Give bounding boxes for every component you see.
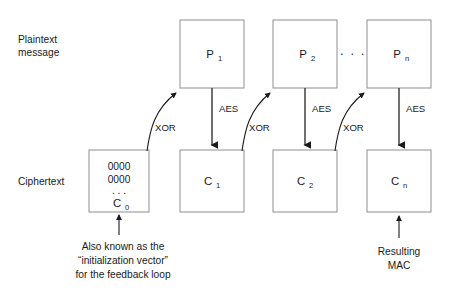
ciphertext-block-c2-label: C xyxy=(297,175,305,187)
ciphertext-block-c1: C 1 xyxy=(180,150,244,212)
iv-caption: Also known as the “initialization vector… xyxy=(75,241,170,280)
aes-label-1: AES xyxy=(219,103,238,114)
xor-label-2: XOR xyxy=(249,122,270,133)
aes-label-2: AES xyxy=(312,103,331,114)
ciphertext-block-cn-label: C xyxy=(391,175,399,187)
iv-block-ellipsis: . . . xyxy=(112,185,126,196)
ciphertext-block-cn: C n xyxy=(367,150,431,212)
iv-caption-line2: “initialization vector” xyxy=(78,255,169,266)
mac-caption: Resulting MAC xyxy=(378,246,421,271)
ciphertext-block-c1-label: C xyxy=(204,175,212,187)
plaintext-block-p1: P 1 xyxy=(180,20,244,88)
iv-caption-line3: for the feedback loop xyxy=(75,269,170,280)
plaintext-block-p2-subscript: 2 xyxy=(311,54,315,63)
plaintext-block-p2: P 2 xyxy=(273,20,337,88)
plaintext-block-p1-subscript: 1 xyxy=(218,54,222,63)
plaintext-row-ellipsis: . . . xyxy=(340,43,366,58)
iv-block-c0: 0000 0000 . . . C 0 xyxy=(89,150,149,212)
ciphertext-block-cn-subscript: n xyxy=(403,181,407,190)
row-label-plaintext: Plaintext message xyxy=(18,34,60,58)
xor-label-1: XOR xyxy=(155,122,176,133)
row-label-ciphertext-line1: Ciphertext xyxy=(18,176,65,187)
mac-caption-line1: Resulting xyxy=(378,246,421,257)
iv-block-c0-label: C xyxy=(113,197,121,209)
iv-block-c0-subscript: 0 xyxy=(125,203,129,212)
ciphertext-block-c2-subscript: 2 xyxy=(309,181,313,190)
xor-label-n: XOR xyxy=(343,122,364,133)
plaintext-block-p1-label: P xyxy=(206,48,214,60)
iv-caption-line1: Also known as the xyxy=(82,241,165,252)
row-label-plaintext-line1: Plaintext xyxy=(18,34,57,45)
plaintext-block-pn-subscript: n xyxy=(405,54,409,63)
row-label-ciphertext: Ciphertext xyxy=(18,176,65,187)
ciphertext-block-c2: C 2 xyxy=(273,150,337,212)
diagram-canvas: Plaintext message Ciphertext P 1 P 2 . .… xyxy=(0,0,453,298)
plaintext-block-pn: P n xyxy=(367,20,431,88)
iv-block-zeros-line2: 0000 xyxy=(108,174,131,185)
iv-block-zeros-line1: 0000 xyxy=(108,161,131,172)
row-label-plaintext-line2: message xyxy=(18,47,60,58)
plaintext-block-p2-label: P xyxy=(299,48,307,60)
ciphertext-block-c1-subscript: 1 xyxy=(216,181,220,190)
plaintext-block-pn-label: P xyxy=(393,48,401,60)
aes-label-n: AES xyxy=(406,103,425,114)
cbc-mac-diagram: Plaintext message Ciphertext P 1 P 2 . .… xyxy=(0,0,453,298)
mac-caption-line2: MAC xyxy=(388,260,411,271)
